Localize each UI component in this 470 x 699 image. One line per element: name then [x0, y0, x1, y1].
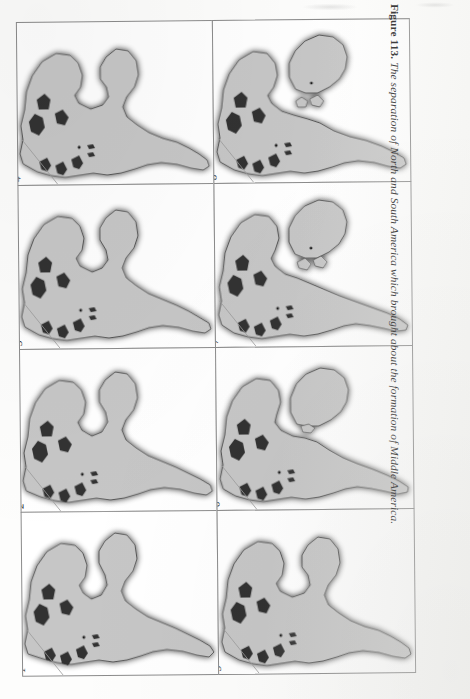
panel-number-label: 6: [215, 501, 222, 507]
panel-number-label: 8: [212, 174, 219, 180]
panel-number-label: 3: [17, 340, 24, 346]
panel-number-label: 4: [15, 176, 22, 182]
map-stage-3: [18, 185, 216, 347]
panel-number-label: 2: [19, 503, 26, 509]
panel-number-label: 5: [217, 665, 224, 671]
figure-panel-2: 2: [19, 346, 218, 512]
panel-3-map-area: 3: [18, 184, 215, 348]
figure-panel-grid: 4: [16, 18, 415, 676]
map-stage-4: [16, 22, 214, 184]
figure-panel-3: 3: [17, 183, 216, 349]
panel-4-map-area: 4: [16, 21, 213, 185]
figure-caption-text: Figure 113. The separation of North and …: [389, 0, 401, 524]
figure-caption: Figure 113. The separation of North and …: [372, 0, 418, 699]
figure-caption-body: The separation of North and South Americ…: [389, 62, 401, 524]
figure-panel-1: 1: [20, 510, 219, 676]
panel-number-label: 1: [20, 667, 27, 673]
panel-1-map-area: 1: [21, 511, 218, 675]
map-stage-2: [19, 349, 217, 511]
map-stage-1: [21, 512, 219, 674]
panel-number-label: 7: [213, 338, 220, 344]
figure-panel-4: 4: [15, 20, 214, 186]
panel-2-map-area: 2: [20, 348, 217, 512]
panel-grid: 4: [16, 18, 415, 676]
figure-caption-label: Figure 113.: [389, 4, 401, 59]
